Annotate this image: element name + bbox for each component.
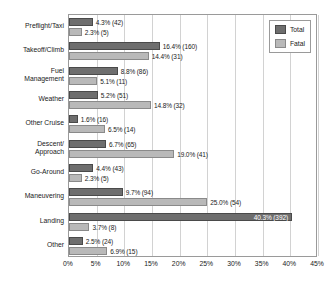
- bar-fatal[interactable]: [69, 174, 82, 182]
- y-axis-label: Preflight/Taxi: [0, 22, 64, 30]
- bar-row-total: 4.4% (43): [69, 164, 316, 172]
- bar-row-fatal: 19.0% (41): [69, 150, 316, 158]
- bar-row-total: 6.7% (65): [69, 140, 316, 148]
- bar-value-label: 3.7% (8): [92, 223, 116, 230]
- bar-row-total: 8.8% (86): [69, 67, 316, 75]
- legend-label-fatal: Fatal: [290, 40, 305, 47]
- x-axis-tick: 20%: [172, 260, 186, 267]
- bar-total[interactable]: [69, 91, 98, 99]
- bar-row-fatal: 6.9% (15): [69, 247, 316, 255]
- bar-group: 2.5% (24)6.9% (15): [69, 234, 316, 258]
- bar-value-label: 19.0% (41): [177, 150, 208, 157]
- bar-value-label: 5.1% (11): [100, 77, 127, 84]
- y-axis-label: Fuel Management: [0, 67, 64, 83]
- bar-total[interactable]: [69, 164, 93, 172]
- bar-group: 40.3% (392)3.7% (8): [69, 209, 316, 233]
- bar-row-fatal: 14.8% (32): [69, 101, 316, 109]
- bar-fatal[interactable]: [69, 150, 174, 158]
- bar-group: 9.7% (94)25.0% (54): [69, 185, 316, 209]
- bar-total[interactable]: [69, 115, 78, 123]
- legend-item-total[interactable]: Total: [275, 25, 305, 34]
- bar-fatal[interactable]: [69, 101, 151, 109]
- legend-swatch-total-icon: [275, 25, 286, 34]
- bar-fatal[interactable]: [69, 28, 82, 36]
- x-axis-tick: 25%: [200, 260, 214, 267]
- bar-row-total: 5.2% (51): [69, 91, 316, 99]
- bar-value-label: 6.7% (65): [109, 140, 136, 147]
- bar-fatal[interactable]: [69, 223, 89, 231]
- bar-group: 8.8% (86)5.1% (11): [69, 64, 316, 88]
- legend-label-total: Total: [290, 26, 304, 33]
- x-axis-tick: 0%: [63, 260, 73, 267]
- x-axis-tick: 40%: [283, 260, 297, 267]
- bar-value-label: 6.9% (15): [110, 247, 137, 254]
- bar-value-label: 8.8% (86): [121, 67, 148, 74]
- bar-fatal[interactable]: [69, 125, 105, 133]
- bar-value-label: 9.7% (94): [126, 189, 153, 196]
- bar-fatal[interactable]: [69, 77, 97, 85]
- y-axis-label: Other Cruise: [0, 119, 64, 127]
- bar-row-total: 40.3% (392): [69, 213, 316, 221]
- x-axis-tick: 45%: [310, 260, 324, 267]
- x-axis-tick: 10%: [117, 260, 131, 267]
- bar-total[interactable]: [69, 188, 123, 196]
- bar-group: 1.6% (16)6.5% (14): [69, 112, 316, 136]
- legend-item-fatal[interactable]: Fatal: [275, 39, 305, 48]
- bar-value-label: 25.0% (54): [210, 199, 241, 206]
- bar-chart: Preflight/TaxiTakeoff/ClimbFuel Manageme…: [0, 0, 331, 288]
- y-axis-label: Takeoff/Climb: [0, 46, 64, 54]
- bar-value-label: 16.4% (160): [163, 43, 197, 50]
- legend-swatch-fatal-icon: [275, 39, 286, 48]
- chart-legend: Total Fatal: [269, 20, 311, 53]
- bar-row-fatal: 2.3% (5): [69, 174, 316, 182]
- bar-value-label: 14.8% (32): [154, 102, 185, 109]
- bar-fatal[interactable]: [69, 198, 207, 206]
- bar-row-fatal: 14.4% (31): [69, 52, 316, 60]
- bar-total[interactable]: [69, 18, 93, 26]
- bar-group: 4.4% (43)2.3% (5): [69, 161, 316, 185]
- bar-row-total: 2.5% (24): [69, 237, 316, 245]
- bar-value-label: 2.3% (5): [85, 174, 109, 181]
- bar-value-label: 5.2% (51): [101, 92, 128, 99]
- y-axis-label: Go-Around: [0, 168, 64, 176]
- bar-row-total: 9.7% (94): [69, 188, 316, 196]
- bar-group: 6.7% (65)19.0% (41): [69, 137, 316, 161]
- bar-row-total: 1.6% (16): [69, 115, 316, 123]
- x-axis-tick: 15%: [144, 260, 158, 267]
- bar-value-label: 1.6% (16): [81, 116, 108, 123]
- y-axis-label: Descent/ Approach: [0, 140, 64, 156]
- bar-value-label: 2.5% (24): [86, 237, 113, 244]
- bar-row-fatal: 3.7% (8): [69, 223, 316, 231]
- x-axis-tick: 5%: [91, 260, 101, 267]
- x-axis-tick: 30%: [227, 260, 241, 267]
- y-axis-label: Maneuvering: [0, 192, 64, 200]
- bar-total[interactable]: [69, 42, 160, 50]
- bar-value-label: 40.3% (392): [254, 213, 288, 220]
- bar-value-label: 2.3% (5): [85, 29, 109, 36]
- bar-row-fatal: 6.5% (14): [69, 125, 316, 133]
- bar-total[interactable]: [69, 237, 83, 245]
- bar-fatal[interactable]: [69, 52, 149, 60]
- bar-total[interactable]: [69, 67, 118, 75]
- gridline-45%: [318, 15, 319, 256]
- y-axis-category-labels: Preflight/TaxiTakeoff/ClimbFuel Manageme…: [0, 14, 64, 257]
- bar-value-label: 4.3% (42): [96, 19, 123, 26]
- x-axis: 0%5%10%15%20%25%30%35%40%45%: [68, 258, 317, 274]
- bar-total[interactable]: [69, 140, 106, 148]
- bar-value-label: 6.5% (14): [108, 126, 135, 133]
- plot-area: 4.3% (42)2.3% (5)16.4% (160)14.4% (31)8.…: [68, 14, 317, 257]
- y-axis-label: Landing: [0, 217, 64, 225]
- y-axis-label: Other: [0, 241, 64, 249]
- bar-group: 5.2% (51)14.8% (32): [69, 88, 316, 112]
- y-axis-label: Weather: [0, 95, 64, 103]
- bar-row-fatal: 25.0% (54): [69, 198, 316, 206]
- bar-fatal[interactable]: [69, 247, 107, 255]
- x-axis-tick: 35%: [255, 260, 269, 267]
- bar-value-label: 4.4% (43): [96, 164, 123, 171]
- bar-row-fatal: 5.1% (11): [69, 77, 316, 85]
- bar-value-label: 14.4% (31): [152, 53, 183, 60]
